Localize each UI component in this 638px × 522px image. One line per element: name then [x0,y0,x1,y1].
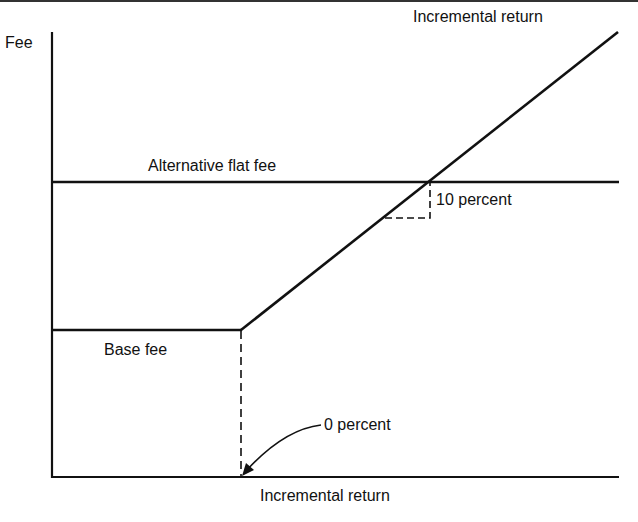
zero-percent-arrow [247,425,321,470]
base-fee-label: Base fee [104,342,167,358]
x-axis-label: Incremental return [260,488,390,504]
zero-percent-label: 0 percent [324,417,391,433]
line-label: Incremental return [413,9,543,25]
y-axis-label: Fee [5,35,33,51]
fee-diagram [0,0,638,522]
slope-label: 10 percent [436,192,512,208]
flat-fee-label: Alternative flat fee [148,158,276,174]
